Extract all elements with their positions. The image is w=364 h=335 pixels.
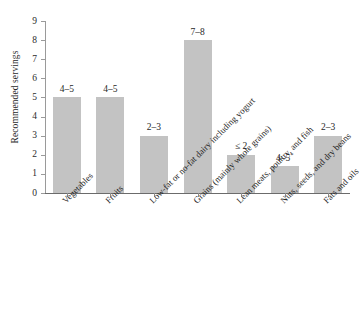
y-axis-tick: 5 [41,97,45,98]
y-axis-tick-label: 0 [32,189,37,199]
y-axis-tick-label: 1 [32,170,37,180]
y-axis-tick: 1 [41,174,45,175]
bar-chart-figure: Recommended servings 0123456789 4–54–52–… [0,0,364,335]
y-axis-tick: 7 [41,59,45,60]
bar: 4–5 [53,97,81,193]
y-axis-tick-label: 8 [32,36,37,46]
y-axis-tick: 8 [41,40,45,41]
bar-value-label: 4–5 [103,85,117,95]
y-axis-title: Recommended servings [6,0,24,193]
y-axis-tick-label: 2 [32,151,37,161]
y-axis-title-text: Recommended servings [10,50,20,143]
y-axis-tick: 0 [41,193,45,194]
bar: 4–5 [96,97,124,193]
y-axis-tick: 3 [41,136,45,137]
bar-value-label: 2–3 [147,123,161,133]
y-axis-tick-label: 5 [32,93,37,103]
y-axis-tick-label: 4 [32,112,37,122]
y-axis-tick: 4 [41,117,45,118]
y-axis-tick-label: 6 [32,74,37,84]
y-axis-tick: 6 [41,78,45,79]
plot-area: 0123456789 4–54–52–37–8≤ 24–5*2–3 [45,18,350,193]
y-axis-tick-label: 3 [32,131,37,141]
y-axis-tick-label: 9 [32,17,37,27]
y-axis-tick: 2 [41,155,45,156]
y-axis-line [45,21,46,193]
y-axis-tick-label: 7 [32,55,37,65]
bar-value-label: 4–5 [60,85,74,95]
bar-value-label: 2–3 [321,123,335,133]
bar-value-label: 7–8 [190,28,204,38]
y-axis-tick: 9 [41,21,45,22]
